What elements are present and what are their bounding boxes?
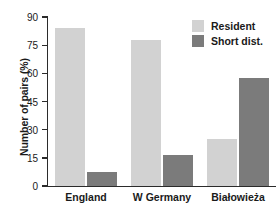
y-tick-label: 15 (6, 152, 38, 163)
legend-label-resident: Resident (211, 20, 255, 32)
bar-short-dist-1 (163, 155, 193, 186)
legend-item-resident: Resident (192, 20, 263, 32)
y-tick-label: 90 (6, 12, 38, 23)
y-tick-mark (42, 129, 48, 130)
y-tick-mark (42, 157, 48, 158)
x-axis-line (47, 186, 276, 187)
y-tick-label: 75 (6, 40, 38, 51)
bar-resident-2 (207, 139, 237, 186)
category-label-2: Białowieża (211, 191, 265, 203)
legend-swatch-short-dist (192, 35, 204, 47)
bar-resident-0 (55, 28, 85, 186)
y-tick-label: 30 (6, 124, 38, 135)
y-tick-label: 60 (6, 68, 38, 79)
category-label-0: England (65, 191, 106, 203)
y-tick-mark (42, 101, 48, 102)
y-tick-mark (42, 73, 48, 74)
bar-chart: Number of pairs (%) 0153045607590 Englan… (0, 0, 278, 214)
category-label-1: W Germany (133, 191, 191, 203)
bar-short-dist-0 (87, 172, 117, 186)
bar-resident-1 (131, 40, 161, 186)
legend-swatch-resident (192, 20, 204, 32)
bar-short-dist-2 (239, 78, 269, 186)
legend-item-short-dist: Short dist. (192, 35, 263, 47)
y-tick-mark (42, 16, 48, 17)
y-tick-mark (42, 185, 48, 186)
y-tick-label: 45 (6, 96, 38, 107)
y-tick-mark (42, 45, 48, 46)
y-tick-label: 0 (6, 181, 38, 192)
legend-label-short-dist: Short dist. (211, 35, 263, 47)
legend: Resident Short dist. (192, 20, 263, 50)
